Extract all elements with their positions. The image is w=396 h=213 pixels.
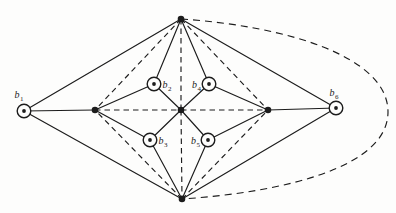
vertex-b3-dot	[148, 138, 152, 142]
graph-diagram: b1b2b3b4b5b6	[0, 0, 396, 213]
vertex-b3-label-subscript: 3	[164, 141, 168, 149]
edge-center-bottom	[181, 110, 182, 199]
edge-top-right-hub	[181, 19, 268, 110]
vertex-left-hub-dot	[92, 107, 99, 114]
vertex-center-dot	[178, 107, 185, 114]
vertex-b5-label: b5	[191, 135, 200, 149]
edge-top-b4	[181, 19, 209, 84]
vertex-top-dot	[178, 16, 185, 23]
edge-bottom-b5	[182, 140, 208, 199]
edge-bottom-b6	[182, 108, 336, 199]
edge-bottom-left-hub	[95, 110, 182, 199]
vertex-b1-label: b1	[15, 89, 24, 103]
edge-b1-left-hub	[24, 110, 95, 111]
edge-right-hub-b6	[268, 108, 336, 110]
vertex-b4-label: b4	[192, 79, 201, 93]
vertex-b2-dot	[152, 82, 156, 86]
vertex-b5-dot	[206, 138, 210, 142]
vertex-b4-label-subscript: 4	[197, 85, 201, 93]
vertex-b2-label: b2	[163, 79, 172, 93]
vertex-b6-label: b6	[330, 87, 339, 101]
edge-top-b6	[181, 19, 336, 108]
edge-top-left-hub	[95, 19, 181, 110]
vertex-b6-dot	[334, 106, 338, 110]
edge-b1-top	[24, 19, 181, 111]
edge-top-b2	[154, 19, 181, 84]
vertex-b4-dot	[207, 82, 211, 86]
edge-right-hub-b4	[209, 84, 268, 110]
edge-left-hub-b3	[95, 110, 150, 140]
edge-bottom-right-hub	[182, 110, 268, 199]
vertex-right-hub-dot	[265, 107, 272, 114]
vertex-b5-label-subscript: 5	[196, 141, 200, 149]
edge-right-hub-b5	[208, 110, 268, 140]
vertex-b3-label: b3	[159, 135, 168, 149]
vertex-b2-label-subscript: 2	[168, 85, 172, 93]
graph-canvas: b1b2b3b4b5b6	[0, 0, 396, 213]
edge-left-hub-b2	[95, 84, 154, 110]
vertex-b6-label-subscript: 6	[335, 93, 339, 101]
vertex-b1-label-subscript: 1	[20, 95, 24, 103]
vertex-b1-dot	[22, 109, 26, 113]
vertex-bottom-dot	[179, 196, 186, 203]
